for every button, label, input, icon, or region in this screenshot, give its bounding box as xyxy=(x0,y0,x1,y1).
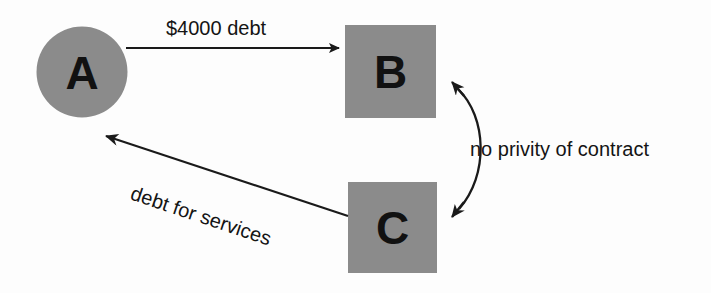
node-c-label: C xyxy=(376,201,409,255)
edge-label-privity: no privity of contract xyxy=(470,138,649,161)
node-a-label: A xyxy=(65,46,98,100)
node-b-label: B xyxy=(374,45,407,99)
node-a: A xyxy=(37,25,127,120)
edge-b-c-arrowhead-bottom xyxy=(452,202,464,217)
edge-label-a-to-b: $4000 debt xyxy=(166,17,266,40)
node-b: B xyxy=(345,25,448,118)
edge-b-c-arrowhead-top xyxy=(452,82,464,96)
node-c: C xyxy=(348,182,447,273)
diagram-canvas: A B C $4000 debt debt for services no pr… xyxy=(0,0,711,293)
